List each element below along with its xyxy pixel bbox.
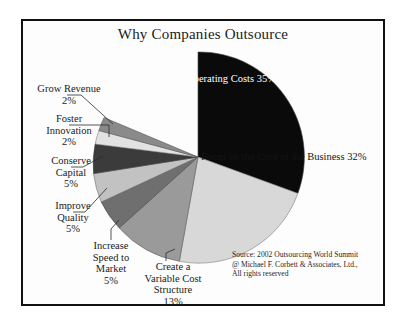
- callout-line-3: Structure: [127, 284, 219, 296]
- callout-line-1: Grow Revenue: [17, 83, 121, 95]
- slice-label-line-2: Core of the: [257, 151, 304, 162]
- callout-line-1: Conserve: [23, 155, 119, 167]
- callout-create-variable-cost-structure: Create a Variable Cost Structure 13%: [127, 261, 219, 307]
- callout-conserve-capital: Conserve Capital 5%: [23, 155, 119, 190]
- source-line-2: @ Michael F. Corbett & Associates, Ltd.,: [232, 260, 358, 270]
- callout-line-1: Foster: [19, 113, 119, 125]
- slice-label-reduce-operating-costs: Reduce Operating Costs 35%: [152, 73, 244, 85]
- callout-grow-revenue: Grow Revenue 2%: [17, 83, 121, 106]
- callout-percent: 13%: [127, 296, 219, 308]
- source-note: Source: 2002 Outsourcing World Summit @ …: [232, 250, 358, 279]
- callout-improve-quality: Improve Quality 5%: [25, 200, 121, 235]
- callout-line-1: Improve: [25, 200, 121, 212]
- callout-line-2: Capital: [23, 167, 119, 179]
- callout-percent: 2%: [19, 136, 119, 148]
- callout-line-2: Innovation: [19, 125, 119, 137]
- slice-label-line-3: Business: [307, 151, 344, 162]
- callout-foster-innovation: Foster Innovation 2%: [19, 113, 119, 148]
- callout-line-1: Create a: [127, 261, 219, 273]
- slice-label-line-3: Costs: [231, 73, 254, 84]
- source-line-1: Source: 2002 Outsourcing World Summit: [232, 250, 358, 260]
- slice-label-line-1: Reduce: [152, 73, 184, 84]
- slice-label-line-2: Operating: [186, 73, 228, 84]
- slice-label-percent: 35%: [257, 73, 276, 84]
- source-line-3: All rights reserved: [232, 269, 358, 279]
- callout-percent: 2%: [17, 95, 121, 107]
- callout-line-1: Increase: [74, 240, 148, 252]
- callout-percent: 5%: [23, 178, 119, 190]
- callout-line-2: Quality: [25, 212, 121, 224]
- callout-percent: 5%: [25, 223, 121, 235]
- slice-label-focus-core-business: Focus on the Core of the Business 32%: [201, 151, 293, 163]
- callout-line-2: Variable Cost: [127, 273, 219, 285]
- slice-label-percent: 32%: [347, 151, 366, 162]
- slice-label-line-1: Focus on the: [201, 151, 255, 162]
